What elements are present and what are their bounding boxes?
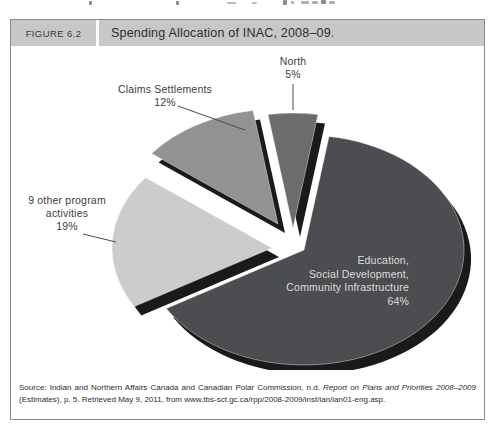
source-title-italic: Report on Plans and Priorities 2008–2009 — [323, 383, 476, 392]
page-text-remnant — [0, 0, 494, 8]
figure-number: FIGURE 6.2 — [26, 28, 82, 39]
pie-chart: North 5% Claims Settlements 12% 9 other … — [11, 46, 484, 370]
pie-label-claims-settlements: Claims Settlements 12% — [105, 83, 225, 109]
source-prefix: Source: Indian and Northern Affairs Cana… — [19, 383, 323, 392]
source-note: Source: Indian and Northern Affairs Cana… — [11, 378, 484, 405]
pie-label-education: Education, Social Development, Community… — [259, 254, 409, 308]
figure-6-2: FIGURE 6.2 Spending Allocation of INAC, … — [10, 19, 485, 420]
source-suffix: (Estimates), p. 5. Retrieved May 9, 2011… — [19, 395, 385, 404]
leader-line-other9 — [83, 234, 116, 242]
figure-number-cell: FIGURE 6.2 — [11, 20, 96, 46]
pie-label-north: North 5% — [253, 55, 333, 81]
figure-title: Spending Allocation of INAC, 2008–09. — [111, 26, 335, 40]
figure-title-cell: Spending Allocation of INAC, 2008–09. — [99, 20, 484, 46]
pie-label-other-programs: 9 other program activities 19% — [17, 194, 117, 233]
figure-header: FIGURE 6.2 Spending Allocation of INAC, … — [11, 20, 484, 46]
